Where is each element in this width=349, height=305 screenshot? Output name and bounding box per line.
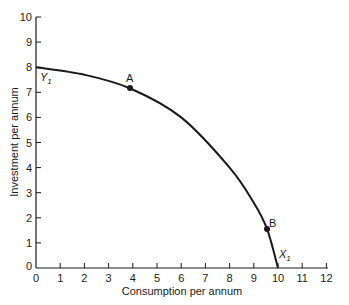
x-tick-label: 4 (130, 272, 136, 284)
y-tick-label: 4 (26, 162, 32, 174)
x1-label: X1 (278, 248, 291, 263)
x-tick-label: 5 (154, 272, 160, 284)
point-a-label: A (126, 72, 134, 84)
y-tick-label: 2 (26, 212, 32, 224)
point-b-label: B (269, 217, 276, 229)
x-tick-label: 3 (106, 272, 112, 284)
y-ticks: 012345678910 (20, 11, 41, 272)
x-tick-label: 9 (251, 272, 257, 284)
y-tick-label: 5 (26, 137, 32, 149)
x-axis-title: Consumption per annum (122, 285, 242, 297)
y-tick-label: 8 (26, 61, 32, 73)
x-tick-label: 7 (202, 272, 208, 284)
x-tick-label: 1 (57, 272, 63, 284)
y1-label: Y1 (40, 71, 52, 86)
x-tick-label: 0 (33, 272, 39, 284)
x-tick-label: 10 (272, 272, 284, 284)
production-possibility-chart: 0123456789101112 012345678910 A B Y1 X1 … (0, 0, 349, 305)
axes (36, 17, 328, 268)
y-tick-label: 0 (26, 260, 32, 272)
y-tick-label: 10 (20, 11, 32, 23)
ppf-curve (36, 67, 278, 268)
y-tick-label: 9 (26, 36, 32, 48)
x-tick-label: 8 (227, 272, 233, 284)
x-tick-label: 12 (320, 272, 332, 284)
y-axis-title: Investment per annum (8, 87, 20, 196)
x-tick-label: 11 (296, 272, 307, 284)
y-tick-label: 3 (26, 187, 32, 199)
x-tick-label: 2 (81, 272, 87, 284)
y-tick-label: 6 (26, 111, 32, 123)
y-tick-label: 7 (26, 86, 32, 98)
x-ticks: 0123456789101112 (33, 263, 333, 284)
y-tick-label: 1 (26, 237, 32, 249)
x-tick-label: 6 (178, 272, 184, 284)
point-a-marker (127, 85, 133, 91)
